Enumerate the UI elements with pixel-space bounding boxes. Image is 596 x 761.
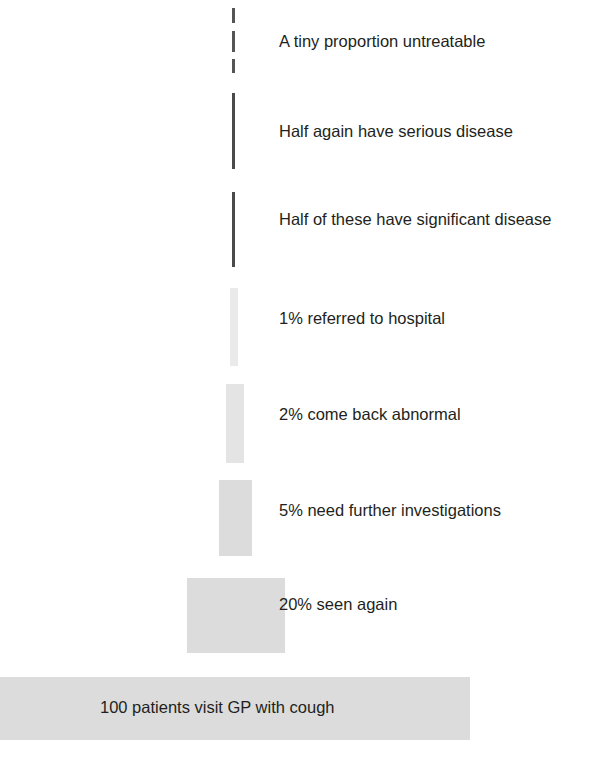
funnel-bar-investigations xyxy=(219,480,252,556)
dashed-segment-1 xyxy=(232,8,235,23)
funnel-tier-label-serious: Half again have serious disease xyxy=(279,121,513,141)
funnel-bar-abnormal xyxy=(226,384,244,463)
funnel-tier-label-investigations: 5% need further investigations xyxy=(279,500,501,520)
dashed-segment-2 xyxy=(232,31,235,52)
funnel-bar-serious xyxy=(232,93,235,169)
funnel-bar-significant xyxy=(232,192,235,267)
funnel-tier-label-seen-again: 20% seen again xyxy=(279,594,397,614)
funnel-diagram: A tiny proportion untreatable Half again… xyxy=(0,0,596,761)
funnel-bar-seen-again xyxy=(187,578,285,653)
funnel-tier-label-referred: 1% referred to hospital xyxy=(279,308,445,328)
funnel-base-label: 100 patients visit GP with cough xyxy=(100,697,335,717)
dashed-segment-3 xyxy=(232,59,235,73)
funnel-tier-label-significant: Half of these have significant disease xyxy=(279,209,551,229)
funnel-tier-label-untreatable: A tiny proportion untreatable xyxy=(279,31,485,51)
funnel-bar-referred xyxy=(230,288,238,366)
funnel-tier-label-abnormal: 2% come back abnormal xyxy=(279,404,461,424)
